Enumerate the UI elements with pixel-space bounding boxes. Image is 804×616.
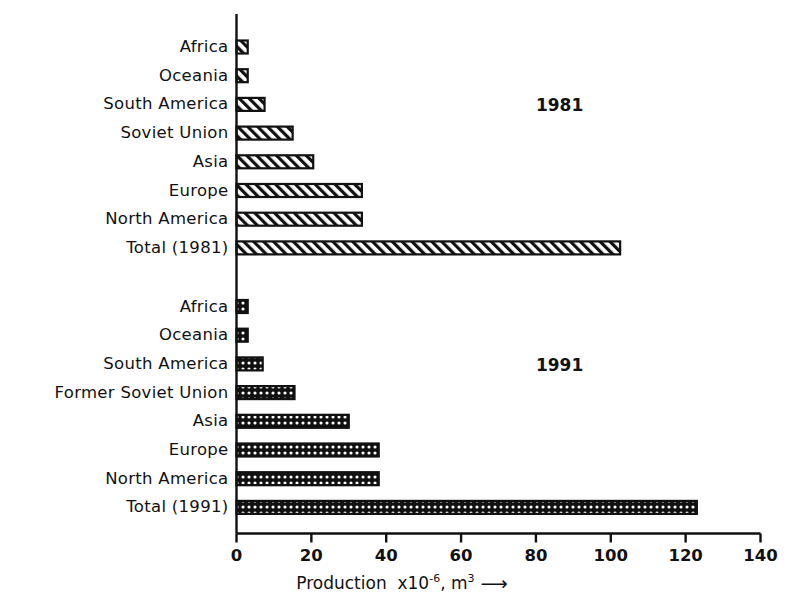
category-label: Asia [193,152,229,171]
x-tick-label: 100 [581,546,641,565]
bars-layer [237,41,697,514]
category-label: Europe [169,181,229,200]
category-label: Africa [180,37,229,56]
x-tick-label: 60 [431,546,491,565]
category-label: Oceania [159,66,229,85]
bar [237,98,265,111]
bar [237,444,379,457]
x-tick-label: 0 [207,546,267,565]
bar [237,41,248,54]
bar [237,155,314,168]
x-tick-label: 120 [656,546,716,565]
category-label: Europe [169,440,229,459]
category-label: Oceania [159,325,229,344]
bar [237,300,248,313]
x-tick-label: 140 [731,546,791,565]
bar [237,241,621,254]
category-label: Total (1991) [126,497,228,516]
bar [237,127,293,140]
axis-layer [237,14,761,543]
x-tick-label: 80 [506,546,566,565]
group-annotation: 1991 [536,355,583,375]
category-label: Asia [193,411,229,430]
bar [237,213,362,226]
category-label: Soviet Union [120,123,228,142]
category-label: North America [105,469,228,488]
bar [237,415,349,428]
x-tick-label: 20 [281,546,341,565]
axis-title-factor-exponent: -6 [429,572,440,585]
category-label: Africa [180,297,229,316]
group-annotation: 1981 [536,95,583,115]
category-label: Former Soviet Union [55,383,229,402]
x-axis-title: Production x10-6, m3⟶ [0,572,804,593]
bar [237,184,362,197]
axis-title-lead: Production [296,573,386,593]
bar [237,69,248,82]
right-arrow-icon: ⟶ [481,574,508,593]
bar-chart: AfricaOceaniaSouth AmericaSoviet UnionAs… [0,0,804,616]
category-label: Total (1981) [126,238,228,257]
bar [237,329,248,342]
category-label: North America [105,209,228,228]
category-label: South America [103,354,228,373]
axis-title-factor-base: x10 [397,573,429,593]
chart-canvas [0,0,804,616]
axis-title-unit-exponent: 3 [468,572,475,585]
category-label: South America [103,94,228,113]
axis-title-unit-base: m [451,573,468,593]
x-tick-label: 40 [356,546,416,565]
bar [237,357,263,370]
bar [237,501,697,514]
bar [237,386,295,399]
bar [237,472,379,485]
